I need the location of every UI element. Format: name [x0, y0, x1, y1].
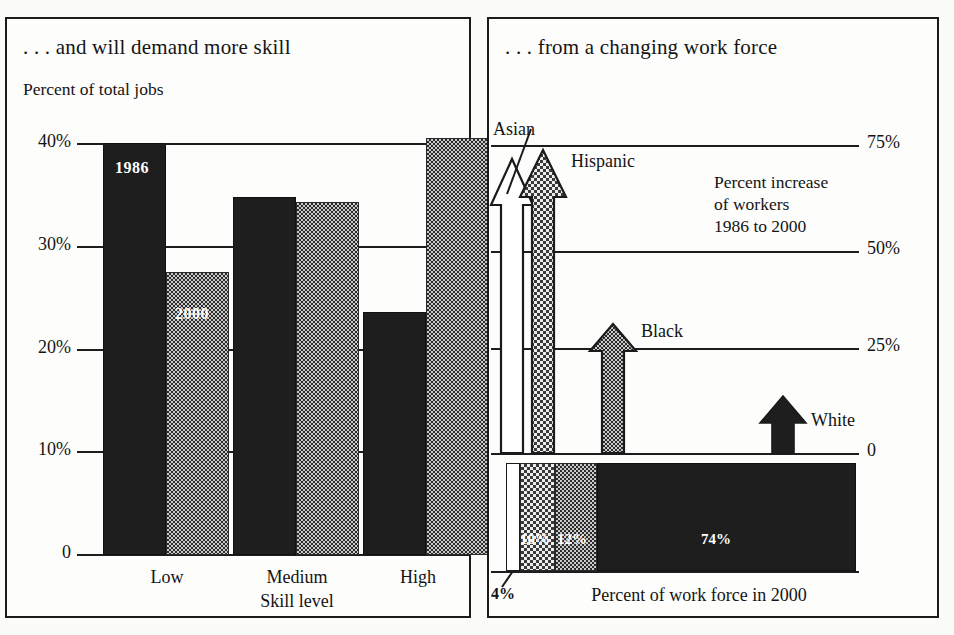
bar-1986-low — [103, 143, 166, 555]
ytick-label-40: 40% — [7, 131, 71, 152]
tick-30 — [77, 246, 103, 248]
figure-canvas: . . . and will demand more skill Percent… — [0, 0, 954, 635]
xtick-label-low: Low — [105, 567, 229, 588]
x-axis-caption: Skill level — [235, 591, 359, 612]
tick-10 — [77, 451, 103, 453]
xtick-label-medium: Medium — [235, 567, 359, 588]
skill-level-panel: . . . and will demand more skill Percent… — [5, 17, 471, 618]
tick-0 — [77, 554, 103, 556]
segment-label-black: 12% — [557, 531, 587, 548]
ytick-label-20: 20% — [7, 337, 71, 358]
series-label-2000: 2000 — [175, 305, 209, 323]
ytick-label-10: 10% — [7, 439, 71, 460]
bar-2000-medium — [296, 202, 359, 555]
work-force-panel: . . . from a changing work force Percent… — [487, 17, 939, 618]
four-percent-leader-line — [489, 19, 937, 619]
segment-label-hispanic: 10% — [520, 531, 550, 548]
segment-label-asian: 4% — [491, 585, 515, 603]
tick-20 — [77, 349, 103, 351]
bottom-caption: Percent of work force in 2000 — [549, 585, 849, 606]
bar-1986-medium — [233, 197, 296, 555]
segment-label-white: 74% — [701, 531, 731, 548]
bar-1986-high — [363, 312, 426, 555]
ytick-label-30: 30% — [7, 234, 71, 255]
xtick-label-high: High — [363, 567, 473, 588]
bar-2000-high — [426, 138, 489, 555]
left-plot-area: 40% 30% 20% 10% 0 1986 2000 Low Medium H… — [7, 19, 469, 616]
right-plot-area: 75% 50% 25% 0 — [489, 19, 937, 616]
series-label-1986: 1986 — [115, 159, 149, 177]
ytick-label-0: 0 — [7, 542, 71, 563]
tick-40 — [77, 143, 103, 145]
